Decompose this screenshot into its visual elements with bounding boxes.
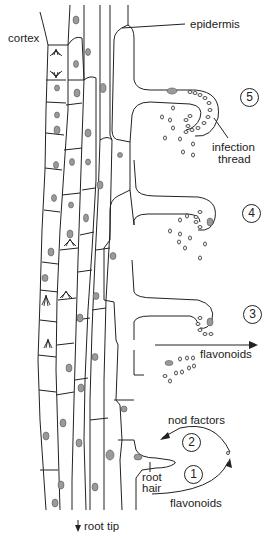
- label-infection-thread-1: infection: [212, 141, 255, 153]
- label-root-hair-2: hair: [142, 482, 161, 494]
- root-hair-5: [128, 25, 219, 136]
- epidermis-cell-walls: [112, 5, 128, 140]
- label-root-tip: root tip: [84, 520, 119, 532]
- label-cortex: cortex: [8, 32, 39, 44]
- root-hair-short: [134, 350, 144, 375]
- root-diagram: [0, 0, 274, 538]
- epidermis-pointer: [122, 24, 185, 28]
- label-infection-thread-2: thread: [218, 153, 251, 165]
- step-1-badge: 1: [184, 465, 203, 484]
- label-epidermis: epidermis: [190, 18, 240, 30]
- label-flavonoids-upper: flavonoids: [200, 348, 252, 360]
- label-nod-factors: nod factors: [168, 414, 225, 426]
- step-4-badge: 4: [242, 204, 261, 223]
- step-2-badge: 2: [182, 433, 201, 452]
- step-5-badge: 5: [240, 88, 259, 107]
- root-hair-4: [134, 160, 215, 230]
- step-3-badge: 3: [243, 305, 262, 324]
- label-flavonoids-lower: flavonoids: [170, 497, 222, 509]
